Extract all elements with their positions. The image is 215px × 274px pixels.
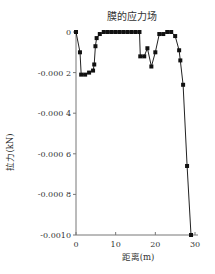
data-point-marker [98,32,102,36]
data-point-marker [165,30,169,34]
y-axis-label: 拉力(kN) [5,133,15,170]
data-point-marker [114,30,118,34]
data-point-marker [177,48,181,52]
data-point-marker [157,32,161,36]
x-axis-label: 距离(m) [122,252,155,262]
y-tick-label: -0.000 4 [38,109,71,118]
x-tick-label: 20 [150,240,160,249]
data-markers [74,30,193,237]
data-point-marker [130,30,134,34]
data-point-marker [185,164,189,168]
data-line [76,32,191,235]
data-point-marker [79,73,83,77]
data-point-marker [161,32,165,36]
data-point-marker [145,46,149,50]
y-tick-label: -0.0010 [40,231,71,240]
data-point-marker [106,30,110,34]
data-point-marker [181,83,185,87]
data-point-marker [93,44,97,48]
y-tick-label: -0.000 8 [38,190,71,199]
x-tick-label: 30 [190,240,200,249]
data-point-marker [153,50,157,54]
y-tick-label: -0.000 2 [38,69,71,78]
x-tick-label: 0 [73,240,78,249]
data-point-marker [87,71,91,75]
data-point-marker [78,50,82,54]
data-point-marker [178,58,182,62]
y-tick-label: -0.000 6 [38,150,71,159]
stress-field-chart: 膜的应力场 01020300-0.000 2-0.000 4-0.000 6-0… [0,0,215,274]
data-point-marker [110,30,114,34]
data-point-marker [134,30,138,34]
data-point-marker [142,54,146,58]
data-point-marker [173,34,177,38]
x-tick-label: 10 [111,240,121,249]
y-tick-label: 0 [66,28,71,37]
data-point-marker [189,233,193,237]
data-point-marker [137,30,141,34]
data-point-marker [118,30,122,34]
data-point-marker [102,30,106,34]
tick-labels: 01020300-0.000 2-0.000 4-0.000 6-0.000 8… [38,28,200,249]
data-point-marker [95,36,99,40]
data-point-marker [74,30,78,34]
data-point-marker [126,30,130,34]
data-point-marker [149,65,153,69]
data-point-marker [92,62,96,66]
data-point-marker [122,30,126,34]
data-point-marker [83,73,87,77]
data-point-marker [169,30,173,34]
chart-title: 膜的应力场 [107,10,157,22]
data-point-marker [91,69,95,73]
data-point-marker [138,54,142,58]
